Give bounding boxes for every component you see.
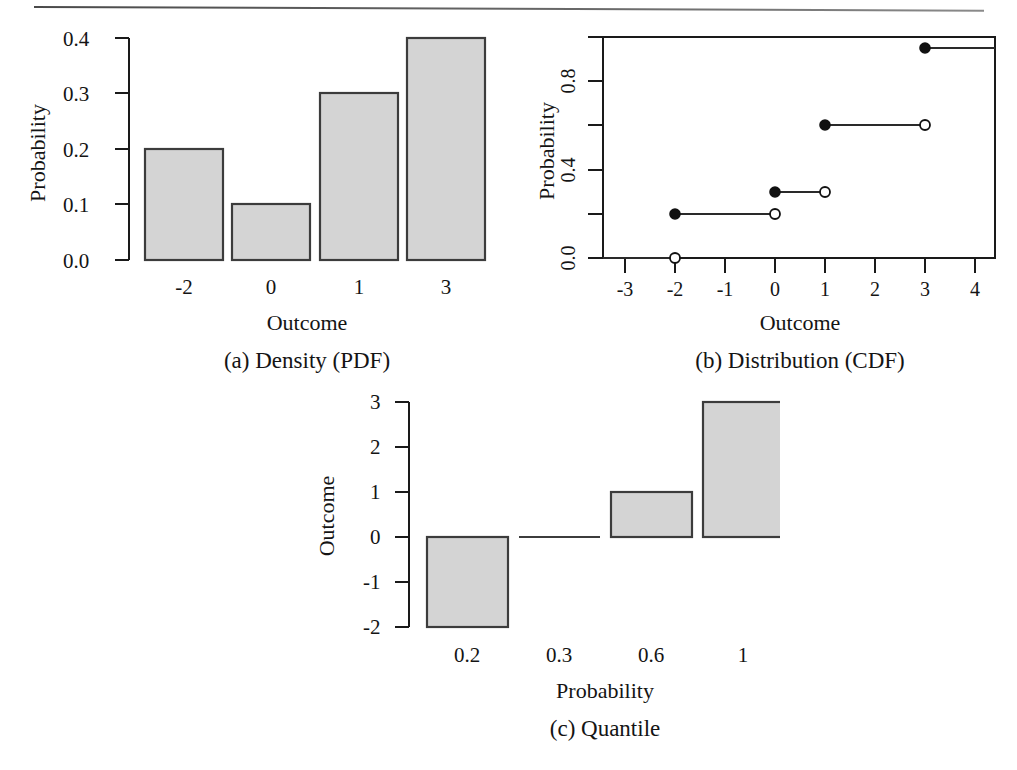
panel-a-bar-1 [320, 93, 398, 260]
panel-c-bar-0.2 [427, 537, 508, 627]
panel-c-xtick-label-3: 1 [738, 643, 749, 668]
panel-b-closed-point-minus2 [670, 209, 680, 219]
panel-b-xtick-label-1: -2 [667, 278, 684, 301]
panel-b-open-point-minus2 [670, 253, 680, 263]
panel-b-xtick-label-5: 2 [870, 278, 880, 301]
panel-b-closed-point-0 [770, 187, 780, 197]
panel-b-caption: (b) Distribution (CDF) [695, 348, 905, 374]
panel-a-bar-0 [232, 204, 310, 260]
panel-c-ytick-label-2: 1 [370, 480, 381, 505]
panel-b-y-axis-title: Probability [534, 91, 560, 211]
panel-a-xtick-label-1: 0 [266, 275, 277, 300]
panel-b-frame-box [603, 37, 995, 258]
panel-a-xtick-label-2: 1 [354, 275, 365, 300]
panel-a-y-axis-title: Probability [25, 93, 51, 213]
panel-c-bar-1 [703, 402, 780, 537]
panel-c-ytick-label-3: 0 [370, 525, 381, 550]
panel-c-x-axis-title: Probability [556, 678, 654, 704]
panel-c-xtick-label-1: 0.3 [546, 643, 572, 668]
panel-c-y-axis-title: Outcome [314, 461, 340, 571]
panel-b-xtick-label-4: 1 [820, 278, 830, 301]
panel-b-open-point-0 [770, 209, 780, 219]
panel-a-bar-minus2 [145, 149, 223, 260]
panel-b-xtick-label-7: 4 [970, 278, 980, 301]
panel-c-xtick-label-2: 0.6 [638, 643, 664, 668]
panel-a-ytick-label-1: 0.3 [63, 82, 89, 107]
panel-a-ytick-label-3: 0.1 [63, 193, 89, 218]
panel-b-open-point-1 [820, 187, 830, 197]
panel-a-ytick-label-2: 0.2 [63, 138, 89, 163]
panel-b-x-axis-title: Outcome [760, 310, 841, 336]
panel-b-distribution-cdf: 0.8 0.4 0.0 Probability -3 -2 -1 0 1 2 3… [500, 0, 1017, 380]
panel-a-xtick-label-3: 3 [441, 275, 452, 300]
panel-a-caption: (a) Density (PDF) [224, 348, 390, 374]
panel-b-xtick-label-2: -1 [717, 278, 734, 301]
panel-c-quantile: 3 2 1 0 -1 -2 Outcome 0.2 0.3 0.6 1 Prob… [260, 385, 780, 770]
panel-c-ytick-label-4: -1 [363, 570, 381, 595]
panel-a-x-axis-title: Outcome [267, 310, 348, 336]
panel-b-open-point-3 [920, 120, 930, 130]
panel-c-ytick-label-1: 2 [370, 435, 381, 460]
panel-a-xtick-label-0: -2 [175, 275, 193, 300]
panel-a-ytick-label-0: 0.4 [63, 27, 89, 52]
panel-b-xtick-label-3: 0 [770, 278, 780, 301]
panel-c-ytick-label-5: -2 [363, 615, 381, 640]
panel-a-ytick-label-4: 0.0 [63, 249, 89, 274]
panel-c-caption: (c) Quantile [550, 716, 660, 742]
panel-a-density-pdf: 0.4 0.3 0.2 0.1 0.0 Probability -2 0 1 3… [0, 0, 500, 380]
figure-page: 0.4 0.3 0.2 0.1 0.0 Probability -2 0 1 3… [0, 0, 1017, 770]
panel-c-ytick-label-0: 3 [370, 390, 381, 415]
panel-b-closed-point-3 [920, 43, 930, 53]
panel-b-xtick-label-0: -3 [617, 278, 634, 301]
panel-b-ytick-label-0: 0.8 [557, 69, 580, 94]
panel-a-bar-3 [407, 38, 485, 260]
panel-c-bar-0.6 [611, 492, 692, 537]
panel-b-ytick-label-2: 0.0 [557, 246, 580, 271]
panel-c-xtick-label-0: 0.2 [454, 643, 480, 668]
panel-b-xtick-label-6: 3 [920, 278, 930, 301]
panel-b-closed-point-1 [820, 120, 830, 130]
